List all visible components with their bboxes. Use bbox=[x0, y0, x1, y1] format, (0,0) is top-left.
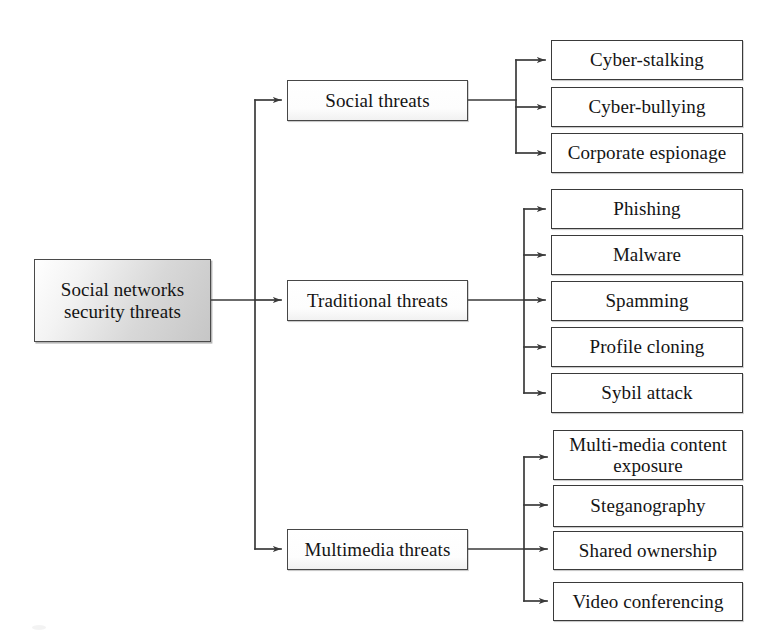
leaf-node-steganography[interactable]: Steganography bbox=[553, 485, 743, 527]
leaf-node-shared-ownership[interactable]: Shared ownership bbox=[553, 531, 743, 570]
category-node-traditional-threats[interactable]: Traditional threats bbox=[287, 280, 468, 321]
leaf-node-label: Phishing bbox=[609, 198, 684, 219]
leaf-node-profile-cloning[interactable]: Profile cloning bbox=[551, 327, 743, 367]
leaf-node-phishing[interactable]: Phishing bbox=[551, 189, 743, 229]
category-node-label: Traditional threats bbox=[303, 290, 452, 311]
category-node-multimedia-threats[interactable]: Multimedia threats bbox=[287, 529, 468, 570]
leaf-node-label: Steganography bbox=[586, 495, 709, 516]
leaf-node-label: Spamming bbox=[601, 290, 692, 311]
leaf-node-label: Malware bbox=[609, 244, 685, 265]
leaf-node-label: Video conferencing bbox=[568, 591, 727, 612]
category-node-social-threats[interactable]: Social threats bbox=[287, 80, 468, 121]
leaf-node-multi-media-content-exposure[interactable]: Multi-media content exposure bbox=[553, 430, 743, 480]
scan-artifact-speck bbox=[32, 625, 46, 630]
leaf-node-label: Corporate espionage bbox=[564, 142, 731, 163]
leaf-node-label: Sybil attack bbox=[597, 382, 696, 403]
leaf-node-video-conferencing[interactable]: Video conferencing bbox=[553, 582, 743, 621]
leaf-node-malware[interactable]: Malware bbox=[551, 235, 743, 275]
threat-taxonomy-diagram: Social networks security threats Social … bbox=[0, 0, 780, 640]
leaf-node-corporate-espionage[interactable]: Corporate espionage bbox=[551, 133, 743, 173]
leaf-node-cyber-stalking[interactable]: Cyber-stalking bbox=[551, 40, 743, 80]
root-node-social-networks-security-threats[interactable]: Social networks security threats bbox=[34, 259, 211, 342]
leaf-node-label: Cyber-bullying bbox=[584, 96, 709, 117]
category-node-label: Multimedia threats bbox=[301, 539, 455, 560]
leaf-node-sybil-attack[interactable]: Sybil attack bbox=[551, 373, 743, 413]
category-node-label: Social threats bbox=[321, 90, 433, 111]
leaf-node-spamming[interactable]: Spamming bbox=[551, 281, 743, 321]
leaf-node-label: Multi-media content exposure bbox=[565, 434, 731, 477]
leaf-node-label: Profile cloning bbox=[586, 336, 709, 357]
leaf-node-cyber-bullying[interactable]: Cyber-bullying bbox=[551, 87, 743, 127]
leaf-node-label: Shared ownership bbox=[575, 540, 721, 561]
root-node-label: Social networks security threats bbox=[57, 279, 188, 322]
leaf-node-label: Cyber-stalking bbox=[586, 49, 708, 70]
